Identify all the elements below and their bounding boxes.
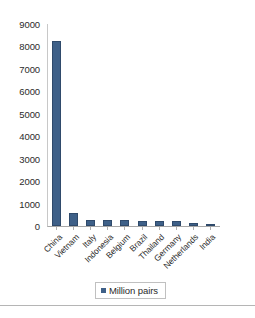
bar-thailand[interactable] — [155, 221, 164, 226]
bar-slot — [65, 24, 82, 226]
bar-india[interactable] — [206, 224, 215, 226]
x-tick-mark — [142, 227, 143, 230]
bottom-divider — [0, 305, 255, 306]
x-label-slot: Netherlands — [185, 231, 202, 279]
bar-italy[interactable] — [86, 220, 95, 227]
bar-brazil[interactable] — [138, 221, 147, 226]
bar-chart-figure: 9000 8000 7000 6000 5000 4000 3000 2000 … — [0, 0, 255, 318]
x-tick-mark — [159, 227, 160, 230]
y-tick-label: 0 — [35, 221, 40, 232]
bar-slot — [202, 24, 219, 226]
bar-vietnam[interactable] — [69, 213, 78, 226]
bar-netherlands[interactable] — [189, 223, 198, 226]
y-tick-label: 9000 — [19, 19, 40, 30]
x-tick-mark — [176, 227, 177, 230]
x-tick-mark — [56, 227, 57, 230]
y-tick-label: 6000 — [19, 86, 40, 97]
x-tick-mark — [90, 227, 91, 230]
bar-germany[interactable] — [172, 221, 181, 226]
x-tick-mark — [193, 227, 194, 230]
legend-swatch-icon — [101, 288, 106, 293]
bar-slot — [185, 24, 202, 226]
chart-legend[interactable]: Million pairs — [95, 282, 166, 299]
bar-series-million-pairs — [48, 24, 219, 226]
x-tick-mark — [107, 227, 108, 230]
bar-china[interactable] — [52, 41, 61, 226]
x-label-slot: India — [202, 231, 219, 279]
legend-label: Million pairs — [109, 285, 158, 296]
bar-slot — [133, 24, 150, 226]
bar-slot — [82, 24, 99, 226]
bar-slot — [151, 24, 168, 226]
x-axis: China Vietnam Italy Indonesia Belgium Br… — [48, 231, 219, 279]
bar-slot — [116, 24, 133, 226]
bar-belgium[interactable] — [120, 220, 129, 226]
x-label-slot: Belgium — [116, 231, 133, 279]
bar-slot — [48, 24, 65, 226]
y-tick-label: 4000 — [19, 131, 40, 142]
x-tick-mark — [73, 227, 74, 230]
y-axis: 9000 8000 7000 6000 5000 4000 3000 2000 … — [0, 24, 43, 226]
x-tick-mark — [124, 227, 125, 230]
y-tick-label: 8000 — [19, 41, 40, 52]
y-tick-label: 3000 — [19, 153, 40, 164]
y-tick-label: 1000 — [19, 198, 40, 209]
bar-indonesia[interactable] — [103, 220, 112, 226]
y-tick-label: 2000 — [19, 176, 40, 187]
bar-slot — [99, 24, 116, 226]
y-tick-label: 7000 — [19, 63, 40, 74]
bar-slot — [168, 24, 185, 226]
x-tick-mark — [210, 227, 211, 230]
y-tick-label: 5000 — [19, 108, 40, 119]
x-label-slot: Vietnam — [65, 231, 82, 279]
